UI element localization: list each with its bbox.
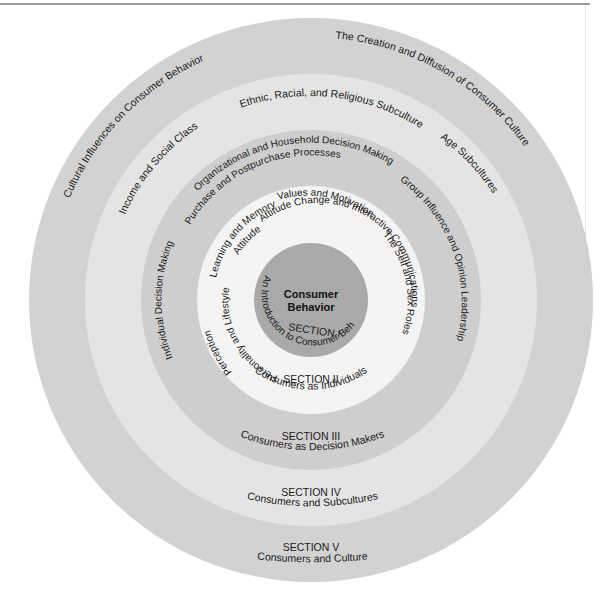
core-title-line2: Behavior [287,301,335,313]
consumer-behavior-ring-diagram: Cultural Influences on Consumer Behavior… [0,0,608,596]
core-title-line1: Consumer [284,288,339,300]
section-v-label: SECTION V [283,541,340,553]
